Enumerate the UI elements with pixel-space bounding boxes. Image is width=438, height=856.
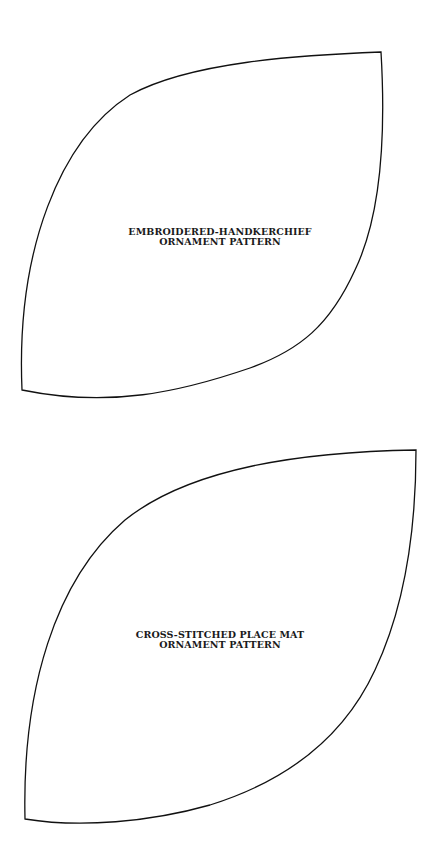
pattern-shapes <box>0 0 438 856</box>
handkerchief-ornament-outline <box>21 52 382 398</box>
label-line-2: ORNAMENT PATTERN <box>95 640 345 650</box>
label-line-2: ORNAMENT PATTERN <box>95 237 345 247</box>
handkerchief-pattern-label: EMBROIDERED-HANDKERCHIEF ORNAMENT PATTER… <box>95 227 345 247</box>
place-mat-pattern-label: CROSS-STITCHED PLACE MAT ORNAMENT PATTER… <box>95 630 345 650</box>
